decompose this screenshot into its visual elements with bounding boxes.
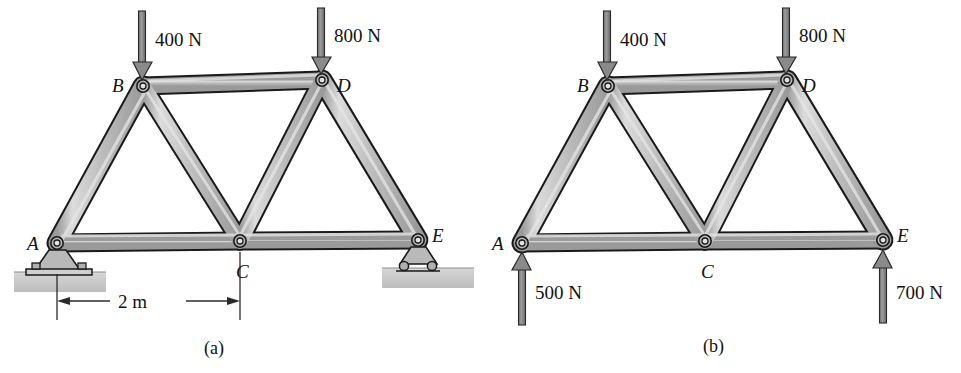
joint-pin-D-b xyxy=(781,74,793,86)
caption-b: (b) xyxy=(703,336,724,357)
load-arrow-800N-b xyxy=(777,8,796,74)
joint-label-B-b: B xyxy=(577,75,589,96)
panel-b: 400 N 800 N 500 N 700 N A B C D E (b) xyxy=(490,8,943,357)
truss-members-b xyxy=(522,75,883,243)
figure-root: 400 N 800 N A B C D E 2 m (a) xyxy=(0,0,961,373)
joint-label-A-a: A xyxy=(25,233,39,254)
load-label-800N-a: 800 N xyxy=(334,25,381,46)
joint-pin-E xyxy=(412,234,424,246)
joint-pin-C-b xyxy=(699,235,711,247)
load-label-800N-b: 800 N xyxy=(799,25,846,46)
load-label-400N-a: 400 N xyxy=(155,29,202,50)
load-arrow-400N-a xyxy=(133,11,152,80)
reaction-arrow-500N xyxy=(512,252,531,325)
load-arrow-400N-b xyxy=(598,11,617,80)
joint-pin-A xyxy=(51,237,63,249)
joint-label-B-a: B xyxy=(112,75,124,96)
roller-support-E xyxy=(396,247,440,271)
reaction-label-700N: 700 N xyxy=(896,282,943,303)
joint-label-E-a: E xyxy=(431,225,444,246)
load-label-400N-b: 400 N xyxy=(620,29,667,50)
joint-pin-E-b xyxy=(877,234,889,246)
dimension-label-2m: 2 m xyxy=(118,291,147,312)
panel-a: 400 N 800 N A B C D E 2 m (a) xyxy=(14,8,474,359)
truss-figure-svg: 400 N 800 N A B C D E 2 m (a) xyxy=(0,0,961,373)
joint-label-C-a: C xyxy=(236,261,249,282)
joint-pin-B-b xyxy=(602,80,614,92)
joint-label-D-a: D xyxy=(336,75,351,96)
joint-pin-D xyxy=(316,74,328,86)
truss-members-a xyxy=(57,75,418,243)
joint-label-E-b: E xyxy=(896,225,909,246)
joint-label-C-b: C xyxy=(701,261,714,282)
joint-pin-B xyxy=(137,80,149,92)
load-arrow-800N-a xyxy=(312,8,331,74)
joint-pin-A-b xyxy=(516,237,528,249)
joint-pin-C xyxy=(234,235,246,247)
reaction-arrow-700N xyxy=(873,250,892,323)
joint-label-D-b: D xyxy=(801,75,816,96)
reaction-label-500N: 500 N xyxy=(535,282,582,303)
caption-a: (a) xyxy=(204,338,224,359)
joint-label-A-b: A xyxy=(490,233,504,254)
